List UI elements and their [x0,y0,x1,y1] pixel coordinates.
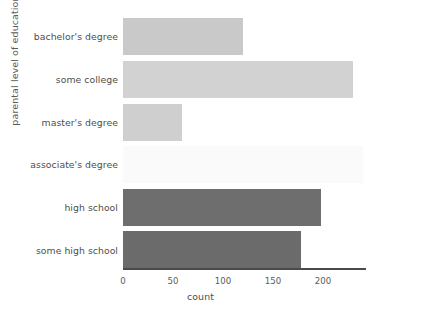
bar-some-college [123,61,353,98]
x-axis-title-wrap: count [0,291,445,302]
y-tick-label-some-high-school: some high school [0,246,118,255]
x-axis-title: count [187,291,214,302]
y-tick-label-masters: master's degree [0,118,118,127]
bar-bachelors-degree [123,18,243,55]
x-tick-label-200: 200 [315,276,331,286]
bar-some-high-school [123,231,301,268]
plot-area [123,10,445,268]
y-axis-tick-labels: bachelor's degree some college master's … [0,0,118,317]
y-tick-label-associates: associate's degree [0,160,118,169]
x-tick-label-100: 100 [215,276,231,286]
y-tick-label-bachelors: bachelor's degree [0,32,118,41]
bar-associates-degree [123,146,363,183]
x-tick-label-0: 0 [120,276,125,286]
y-tick-label-high-school: high school [0,203,118,212]
x-axis-line [123,268,366,270]
bar-high-school [123,189,321,226]
x-tick-label-50: 50 [168,276,179,286]
x-tick-label-150: 150 [265,276,281,286]
horizontal-bar-chart: parental level of education bachelor's d… [0,0,445,317]
bar-masters-degree [123,104,182,141]
y-tick-label-some-college: some college [0,75,118,84]
